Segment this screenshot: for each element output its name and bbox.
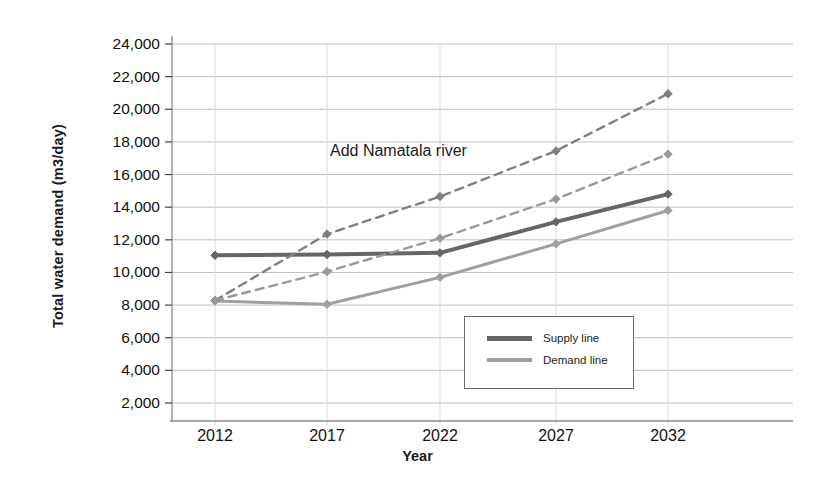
x-tick-label: 2022 bbox=[422, 427, 458, 445]
legend-line-icon-supply bbox=[487, 336, 532, 341]
legend-item-supply[interactable]: Supply line bbox=[465, 327, 633, 349]
x-axis-title: Year bbox=[0, 448, 835, 464]
x-tick-label: 2017 bbox=[309, 427, 345, 445]
x-tick-label: 2027 bbox=[538, 427, 574, 445]
x-tick-label: 2032 bbox=[650, 427, 686, 445]
legend-line-icon-demand bbox=[487, 358, 532, 362]
legend-label-demand: Demand line bbox=[543, 354, 608, 366]
x-tick-label: 2012 bbox=[197, 427, 233, 445]
legend-item-demand[interactable]: Demand line bbox=[465, 349, 633, 371]
chart-annotation: Add Namatala river bbox=[330, 142, 467, 160]
x-axis-tick-labels: 20122017202220272032 bbox=[0, 0, 835, 495]
legend-label-supply: Supply line bbox=[543, 332, 599, 344]
chart-figure: Total water demand (m3/day) 24,00022,000… bbox=[0, 0, 835, 495]
chart-legend: Supply line Demand line bbox=[464, 316, 634, 389]
